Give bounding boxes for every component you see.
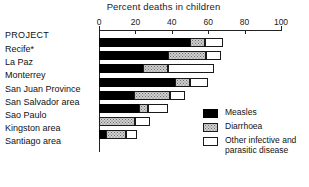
bar-segment-other[interactable] (168, 64, 214, 73)
bar-segment-measles[interactable] (99, 104, 139, 113)
bar-segment-other[interactable] (126, 130, 137, 139)
category-label-2: Monterrey (5, 70, 46, 80)
bar-row[interactable] (99, 51, 221, 60)
bar-segment-other[interactable] (170, 91, 185, 100)
category-label-1: La Paz (5, 57, 33, 67)
x-tickmark-20 (135, 30, 136, 34)
x-axis-tick-labels: 020406080100 (99, 17, 281, 29)
category-label-0: Recife* (5, 44, 34, 54)
legend-label-diarrhoea: Diarrhoea (225, 122, 307, 132)
bar-row[interactable] (99, 130, 137, 139)
bar-row[interactable] (99, 104, 168, 113)
legend-item-diarrhoea[interactable]: Diarrhoea (203, 122, 307, 133)
bar-segment-measles[interactable] (99, 91, 134, 100)
chart-container: Percent deaths in children 020406080100 … (0, 0, 309, 187)
chart-title: Percent deaths in children (0, 1, 309, 12)
bar-segment-diarrhoea[interactable] (106, 130, 126, 139)
legend-label-measles: Measles (225, 108, 307, 118)
bar-row[interactable] (99, 64, 214, 73)
x-axis-endcap-100 (281, 26, 282, 31)
bar-segment-diarrhoea[interactable] (175, 78, 190, 87)
bar-segment-diarrhoea[interactable] (143, 64, 168, 73)
x-tickmark-60 (208, 30, 209, 34)
project-column-header: PROJECT (5, 30, 49, 40)
x-axis-endcap-0 (99, 26, 100, 31)
x-tickmark-80 (245, 30, 246, 34)
legend-item-measles[interactable]: Measles (203, 108, 307, 119)
legend-swatch-other-icon (203, 137, 218, 146)
bar-row[interactable] (99, 38, 223, 47)
legend-swatch-measles-icon (203, 109, 218, 118)
bar-segment-other[interactable] (206, 51, 221, 60)
bar-segment-diarrhoea[interactable] (190, 38, 205, 47)
legend: MeaslesDiarrhoeaOther infective andparas… (203, 108, 307, 158)
bar-segment-measles[interactable] (99, 38, 190, 47)
bar-segment-diarrhoea[interactable] (99, 117, 135, 126)
category-label-4: San Salvador area (5, 97, 80, 107)
legend-swatch-diarrhoea-icon (203, 123, 218, 132)
bar-row[interactable] (99, 117, 150, 126)
x-tickmark-40 (172, 30, 173, 34)
x-axis-line (99, 30, 281, 31)
x-tick-label-20: 20 (131, 17, 140, 27)
category-label-5: Sao Paulo (5, 110, 47, 120)
bar-segment-diarrhoea[interactable] (168, 51, 206, 60)
bar-segment-other[interactable] (148, 104, 168, 113)
bar-segment-measles[interactable] (99, 51, 168, 60)
category-label-6: Kingston area (5, 123, 61, 133)
bar-segment-other[interactable] (205, 38, 223, 47)
x-tick-label-40: 40 (167, 17, 176, 27)
x-tick-label-80: 80 (240, 17, 249, 27)
bar-segment-diarrhoea[interactable] (134, 91, 170, 100)
category-label-7: Santiago area (5, 136, 61, 146)
category-label-3: San Juan Province (5, 84, 81, 94)
bar-segment-other[interactable] (135, 117, 150, 126)
bar-row[interactable] (99, 78, 208, 87)
x-tick-label-60: 60 (203, 17, 212, 27)
bar-segment-measles[interactable] (99, 130, 106, 139)
legend-item-other[interactable]: Other infective andparasitic disease (203, 136, 307, 155)
bar-segment-other[interactable] (190, 78, 208, 87)
bar-segment-measles[interactable] (99, 64, 143, 73)
legend-label-other: Other infective andparasitic disease (225, 136, 307, 155)
bar-segment-measles[interactable] (99, 78, 175, 87)
bar-row[interactable] (99, 91, 185, 100)
bar-segment-diarrhoea[interactable] (139, 104, 148, 113)
